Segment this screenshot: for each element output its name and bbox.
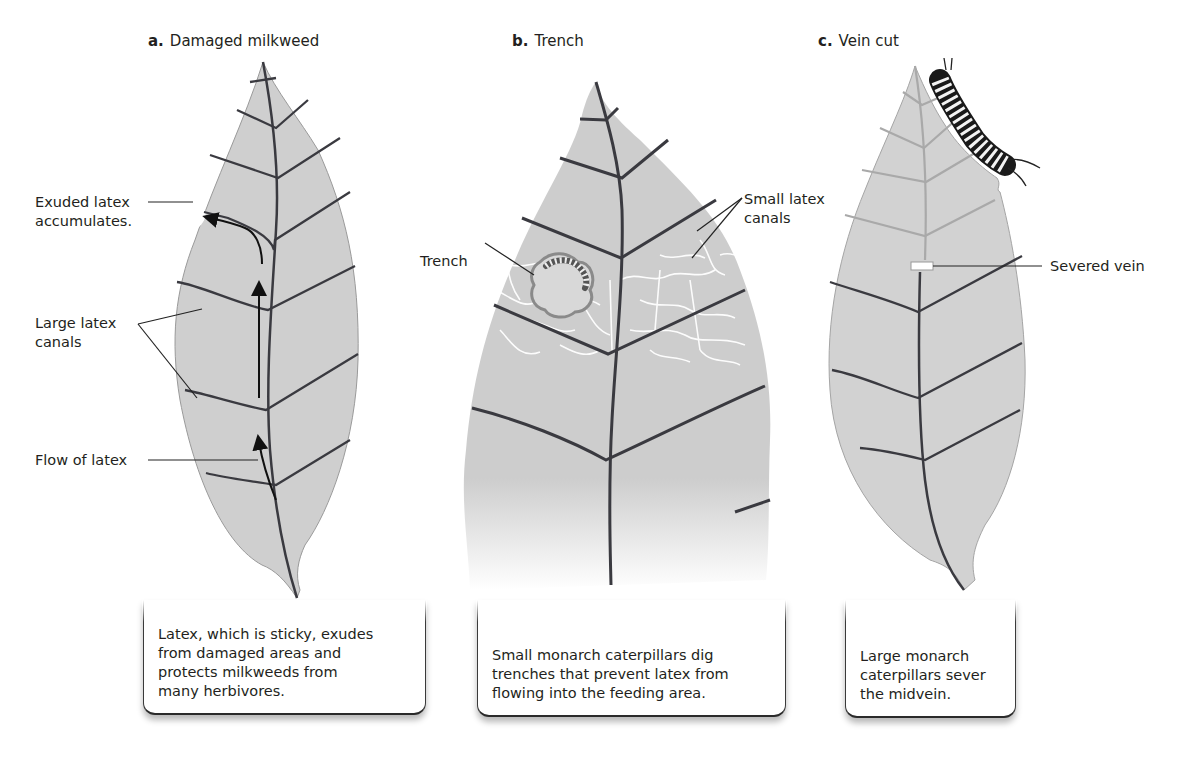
panel-b-letter: b. xyxy=(512,32,528,50)
caption-box-c: Large monarch caterpillars sever the mid… xyxy=(845,600,1016,718)
panel-b-title: b.Trench xyxy=(512,32,584,50)
leaf-b xyxy=(464,82,771,590)
panel-c-letter: c. xyxy=(818,32,833,50)
leaf-c xyxy=(829,58,1042,590)
label-large-latex-canals: Large latex canals xyxy=(35,314,116,352)
label-trench: Trench xyxy=(420,252,468,271)
caption-box-a: Latex, which is sticky, exudes from dama… xyxy=(143,600,426,715)
panel-c-title: c.Vein cut xyxy=(818,32,899,50)
panel-b-title-text: Trench xyxy=(534,32,583,50)
label-flow-of-latex: Flow of latex xyxy=(35,451,127,470)
leaf-a xyxy=(138,62,358,598)
caption-box-b: Small monarch caterpillars dig trenches … xyxy=(477,600,786,717)
panel-c-title-text: Vein cut xyxy=(839,32,899,50)
caption-c-text: Large monarch caterpillars sever the mid… xyxy=(860,647,1001,704)
panel-a-title-text: Damaged milkweed xyxy=(170,32,319,50)
caption-b-text: Small monarch caterpillars dig trenches … xyxy=(492,646,771,703)
label-exuded-latex: Exuded latex accumulates. xyxy=(35,193,132,231)
label-small-latex-canals: Small latex canals xyxy=(744,190,825,228)
panel-a-letter: a. xyxy=(148,32,164,50)
label-severed-vein: Severed vein xyxy=(1050,257,1145,276)
panel-a-title: a.Damaged milkweed xyxy=(148,32,319,50)
caption-a-text: Latex, which is sticky, exudes from dama… xyxy=(158,625,411,701)
